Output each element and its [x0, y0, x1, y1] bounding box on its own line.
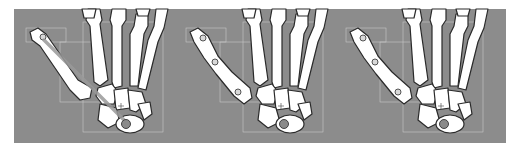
joint-marker	[372, 59, 378, 65]
phalanx-bone	[456, 9, 470, 16]
rotation-center	[440, 120, 449, 129]
phalanx-bone	[242, 9, 256, 18]
joint-marker	[235, 89, 241, 95]
phalanx-bone	[136, 9, 150, 16]
phalanx-bone	[82, 9, 96, 18]
joint-marker	[395, 89, 401, 95]
phalanx-bone	[402, 9, 416, 18]
joint-marker	[212, 59, 218, 65]
rotation-center	[280, 120, 289, 129]
joint-marker	[360, 35, 366, 41]
joint-marker	[200, 35, 206, 41]
hand-skeleton-figure	[0, 0, 529, 150]
phalanx-bone	[296, 9, 310, 16]
rotation-center	[122, 120, 131, 129]
